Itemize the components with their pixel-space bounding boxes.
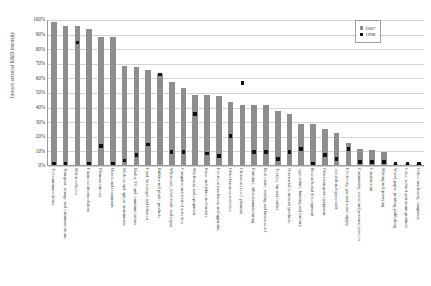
legend-label-1998: 1998 [365, 32, 375, 37]
x-axis-tick-labels: TelecommunicationsTransport, storage and… [47, 168, 424, 284]
marker-1998 [347, 147, 351, 151]
x-axis-tick: Construction [368, 168, 374, 284]
bar-group [86, 20, 92, 165]
y-axis-tick: 0% [7, 163, 45, 168]
bar-group [263, 20, 269, 165]
x-axis-tick-label: Mining and quarrying [380, 168, 385, 207]
x-axis-tick: Non-metallic mineral products [286, 168, 292, 284]
x-axis-tick-label: Construction [369, 168, 374, 191]
x-axis-tick-label: Coke, refined petroleum products [404, 168, 409, 228]
gridline [48, 166, 424, 167]
marker-1998 [288, 150, 292, 154]
marker-1998 [264, 150, 268, 154]
legend-label-2007: 2007 [365, 26, 375, 31]
bar-group [393, 20, 399, 165]
bar-group [416, 20, 422, 165]
bar-group [122, 20, 128, 165]
marker-1998 [99, 144, 103, 148]
bar-group [51, 20, 57, 165]
marker-1998 [76, 41, 80, 45]
bar-2007 [298, 124, 304, 165]
bar-group [228, 20, 234, 165]
marker-1998 [417, 162, 421, 166]
x-axis-tick-label: Other business activities [227, 168, 232, 212]
bar-2007 [51, 22, 57, 165]
x-axis-tick-label: Furniture, other manufacturing [251, 168, 256, 223]
x-axis-tick: Motor vehicles [74, 168, 80, 284]
bar-2007 [134, 67, 140, 165]
bar-group [405, 20, 411, 165]
marker-1998 [217, 154, 221, 158]
x-axis-tick: Pharmaceuticals [97, 168, 103, 284]
x-axis-tick-label: Food, beverages and tobacco [145, 168, 150, 220]
bar-group [334, 20, 340, 165]
marker-1998 [135, 153, 139, 157]
x-axis-tick: Other business activities [227, 168, 233, 284]
x-axis-tick-label: Non-metallic mineral products [286, 168, 291, 223]
bar-2007 [110, 37, 116, 165]
bar-group [75, 20, 81, 165]
x-axis-tick: Real estate, renting and business act. [262, 168, 268, 284]
x-axis-tick-label: Office machinery, computers [416, 168, 421, 220]
bar-2007 [240, 105, 246, 165]
x-axis-tick-label: Electricity, gas and water supply [345, 168, 350, 226]
marker-1998 [193, 112, 197, 116]
x-axis-tick: Other transport equipment [321, 168, 327, 284]
marker-1998 [394, 162, 398, 166]
marker-1998 [358, 160, 362, 164]
x-axis-tick: Medical and optical instruments [121, 168, 127, 284]
x-axis-tick-label: Real estate, renting and business act. [263, 168, 268, 234]
bar-group [346, 20, 352, 165]
legend-item-1998: 1998 [360, 32, 375, 37]
x-axis-tick-label: Research and development [310, 168, 315, 216]
x-axis-tick-label: Financial intermediation [86, 168, 91, 212]
x-axis-tick-label: Pharmaceuticals [98, 168, 103, 197]
bar-group [240, 20, 246, 165]
x-axis-tick-label: Electrical machinery and apparatus [216, 168, 221, 231]
marker-1998 [64, 162, 68, 166]
marker-1998 [370, 160, 374, 164]
bar-group [204, 20, 210, 165]
bar-group [381, 20, 387, 165]
bar-2007 [122, 66, 128, 165]
x-axis-tick: Wood, paper, printing, publishing [392, 168, 398, 284]
marker-1998 [52, 162, 56, 166]
x-axis-tick: Wholesale, retail trade and repair [168, 168, 174, 284]
bar-2007 [310, 124, 316, 165]
x-axis-tick-label: Textiles, fur and leather [274, 168, 279, 210]
marker-1998 [205, 152, 209, 156]
x-axis-tick-label: Aircraft and spacecraft [333, 168, 338, 209]
x-axis-tick-label: Wholesale, retail trade and repair [168, 168, 173, 227]
bar-2007 [75, 26, 81, 165]
x-axis-tick: Financial intermediation [85, 168, 91, 284]
bar-group [298, 20, 304, 165]
x-axis-tick-label: Chemicals (excl. pharma) [239, 168, 244, 214]
marker-1998 [299, 147, 303, 151]
x-axis-tick-label: Machinery and equipment [192, 168, 197, 215]
x-axis-tick-label: Transport, storage and communications [62, 168, 67, 239]
y-axis-tick: 10% [7, 149, 45, 154]
marker-1998 [170, 150, 174, 154]
bar-group [134, 20, 140, 165]
bar-group [322, 20, 328, 165]
x-axis-tick-label: Basic and fabricated metals [204, 168, 209, 217]
x-axis-tick: Furniture, other manufacturing [250, 168, 256, 284]
marker-1998 [111, 162, 115, 166]
x-axis-tick: Research and development [309, 168, 315, 284]
y-axis-title: Inward sectoral R&D intensity [9, 0, 15, 135]
bar-group [157, 20, 163, 165]
x-axis-tick: Agriculture, hunting and forestry [297, 168, 303, 284]
legend-item-2007: 2007 [360, 26, 375, 31]
bar-group [63, 20, 69, 165]
x-axis-tick-label: Community, social and personal services [357, 168, 362, 241]
bar-group [145, 20, 151, 165]
bar-group [275, 20, 281, 165]
marker-1998 [241, 81, 245, 85]
x-axis-tick: Basic and fabricated metals [203, 168, 209, 284]
bar-2007 [63, 26, 69, 165]
marker-1998 [406, 162, 410, 166]
chart-container: Inward sectoral R&D intensity 100%90%80%… [0, 0, 431, 286]
marker-1998 [323, 153, 327, 157]
bar-group [169, 20, 175, 165]
bar-group [192, 20, 198, 165]
